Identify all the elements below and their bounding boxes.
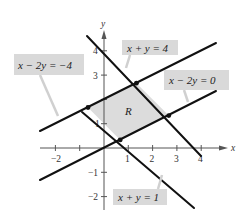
label-x-minus-2y-eq-0: x − 2y = 0 [164, 70, 229, 90]
x-axis [40, 145, 228, 151]
x-tick-2: 2 [150, 154, 155, 164]
svg-text:x − 2y = 0: x − 2y = 0 [168, 74, 216, 86]
x-tick-1: 1 [125, 154, 130, 164]
label-x-plus-y-eq-1: x + y = 1 [113, 189, 167, 205]
y-tick-3: 3 [93, 71, 98, 81]
coordinate-plane: −2 1 2 3 4 4 3 1 −1 −2 y x R x − 2y = −4… [0, 0, 241, 222]
svg-text:x + y = 4: x + y = 4 [126, 42, 169, 54]
y-axis-label: y [100, 19, 106, 29]
x-tick-3: 3 [174, 154, 179, 164]
y-tick-neg1: −1 [88, 168, 98, 178]
x-axis-label: x [230, 143, 236, 153]
svg-text:x + y = 1: x + y = 1 [117, 191, 159, 203]
x-tick-neg2: −2 [51, 154, 61, 164]
label-x-plus-y-eq-4: x + y = 4 [122, 40, 178, 55]
region-label: R [124, 105, 132, 117]
svg-text:x − 2y = −4: x − 2y = −4 [17, 59, 73, 71]
label-x-minus-2y-eq-neg4: x − 2y = −4 [14, 54, 84, 75]
y-tick-neg2: −2 [88, 192, 98, 202]
